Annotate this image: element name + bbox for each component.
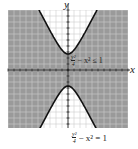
equation-denominator: 4: [73, 138, 76, 144]
inequality-numerator: y²: [71, 54, 75, 61]
graph: [0, 0, 138, 149]
equation-rest: − x² = 1: [78, 133, 107, 143]
equation-numerator: y²: [72, 131, 76, 138]
inequality-rest: − x² ≤ 1: [77, 56, 102, 65]
inequality-label: y² 4 − x² ≤ 1: [71, 54, 103, 67]
equation-label: y² 4 − x² = 1: [72, 131, 107, 144]
y-axis-label: y: [64, 0, 69, 10]
inequality-denominator: 4: [72, 61, 75, 67]
x-axis-label: x: [130, 63, 135, 75]
